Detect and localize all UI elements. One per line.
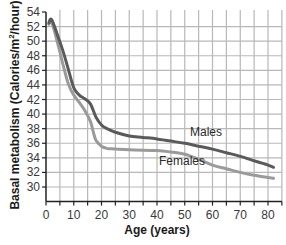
series-label-females: Females [159,154,205,168]
y-tick-label: 36 [27,136,41,150]
y-axis-title-end: /hour) [8,0,22,34]
y-tick-label: 54 [27,5,41,19]
x-tick-label: 30 [123,208,137,222]
y-tick-label: 48 [27,49,41,63]
x-tick-label: 60 [206,208,220,222]
y-tick-label: 32 [27,165,41,179]
x-tick-label: 0 [43,208,50,222]
x-axis-title: Age (years) [124,223,189,237]
x-tick-label: 20 [95,208,109,222]
basal-metabolism-chart: 3032343638404244464850525401020304050607… [0,0,286,245]
y-tick-label: 38 [27,122,41,136]
y-axis-title-main: Basal metabolism (Calories/m [8,39,22,210]
y-tick-label: 34 [27,151,41,165]
x-tick-label: 50 [178,208,192,222]
x-tick-label: 40 [150,208,164,222]
y-tick-label: 30 [27,180,41,194]
y-tick-label: 44 [27,78,41,92]
series-label-males: Males [190,125,222,139]
y-tick-label: 52 [27,20,41,34]
x-tick-label: 10 [67,208,81,222]
x-tick-label: 70 [234,208,248,222]
axes: 3032343638404244464850525401020304050607… [27,5,282,222]
y-tick-label: 42 [27,93,41,107]
x-tick-label: 80 [261,208,275,222]
y-tick-label: 40 [27,107,41,121]
y-tick-label: 46 [27,63,41,77]
y-tick-label: 50 [27,34,41,48]
y-axis-title: Basal metabolism (Calories/m2/hour) [7,0,22,209]
